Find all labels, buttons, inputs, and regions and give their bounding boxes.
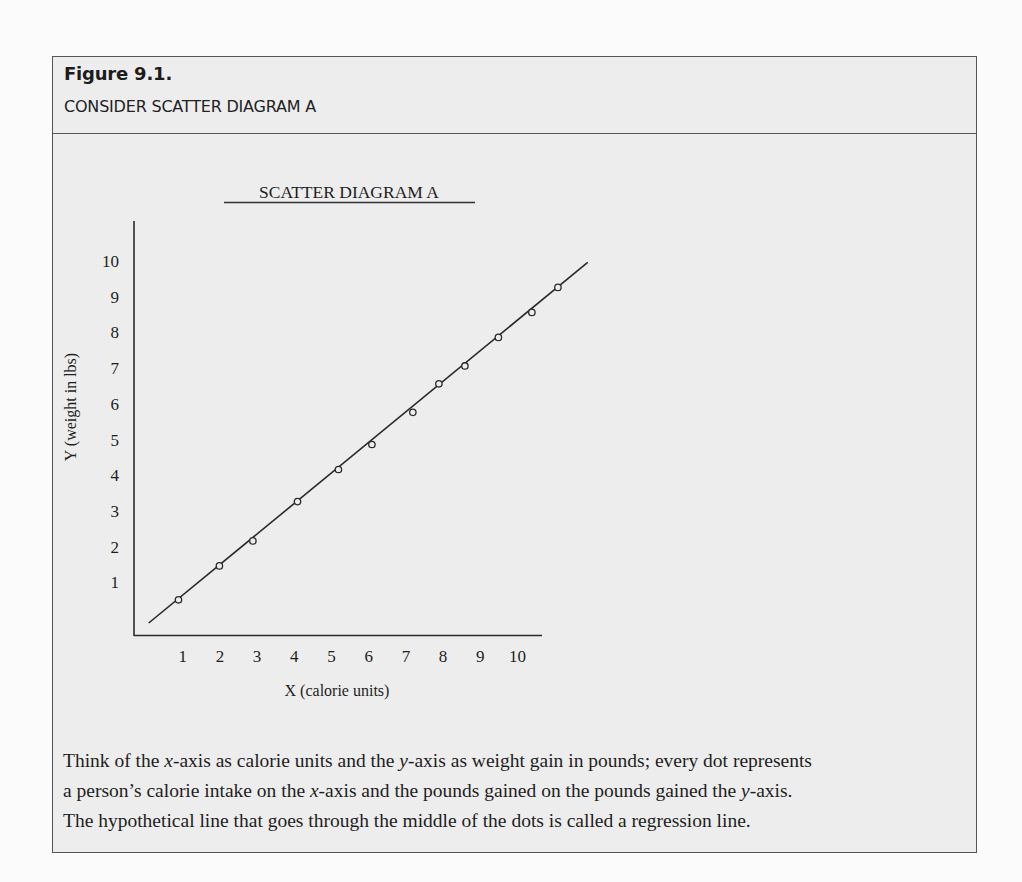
scatter-chart: SCATTER DIAGRAM A 12345678910 1234567891… xyxy=(53,57,978,854)
y-tick-label: 10 xyxy=(102,252,119,271)
caption-line-1: Think of the x-axis as calorie units and… xyxy=(63,746,973,776)
y-tick-label: 4 xyxy=(111,466,120,485)
x-tick-labels: 12345678910 xyxy=(178,647,526,666)
data-point xyxy=(250,538,256,544)
chart-title: SCATTER DIAGRAM A xyxy=(259,182,439,202)
x-tick-label: 8 xyxy=(439,647,448,666)
y-tick-labels: 12345678910 xyxy=(102,252,120,592)
x-tick-label: 1 xyxy=(178,647,187,666)
x-tick-label: 10 xyxy=(509,647,526,666)
x-tick-label: 4 xyxy=(290,647,299,666)
data-point xyxy=(410,409,416,415)
data-point xyxy=(436,381,442,387)
figure-caption: Think of the x-axis as calorie units and… xyxy=(63,746,973,836)
data-point xyxy=(369,441,375,447)
regression-line xyxy=(149,262,588,623)
y-tick-label: 7 xyxy=(111,359,120,378)
x-tick-label: 6 xyxy=(364,647,373,666)
y-tick-label: 5 xyxy=(111,431,120,450)
x-tick-label: 9 xyxy=(476,647,485,666)
y-axis-label: Y (weight in lbs) xyxy=(62,353,80,461)
y-tick-label: 8 xyxy=(111,323,120,342)
data-point xyxy=(294,498,300,504)
x-tick-label: 3 xyxy=(253,647,262,666)
y-tick-label: 6 xyxy=(111,395,120,414)
figure-box: Figure 9.1. CONSIDER SCATTER DIAGRAM A S… xyxy=(52,56,977,853)
caption-line-2: a person’s calorie intake on the x-axis … xyxy=(63,776,973,806)
y-tick-label: 3 xyxy=(111,502,120,521)
x-tick-label: 7 xyxy=(402,647,411,666)
data-point xyxy=(335,466,341,472)
data-point xyxy=(216,563,222,569)
caption-line-3: The hypothetical line that goes through … xyxy=(63,806,973,836)
y-tick-label: 1 xyxy=(111,573,120,592)
data-point xyxy=(462,363,468,369)
data-point xyxy=(495,334,501,340)
y-tick-label: 9 xyxy=(111,288,120,307)
data-point xyxy=(529,309,535,315)
x-tick-label: 5 xyxy=(327,647,336,666)
y-tick-label: 2 xyxy=(111,538,120,557)
data-point xyxy=(555,284,561,290)
x-tick-label: 2 xyxy=(216,647,225,666)
data-point xyxy=(175,597,181,603)
x-axis-label: X (calorie units) xyxy=(285,682,390,700)
